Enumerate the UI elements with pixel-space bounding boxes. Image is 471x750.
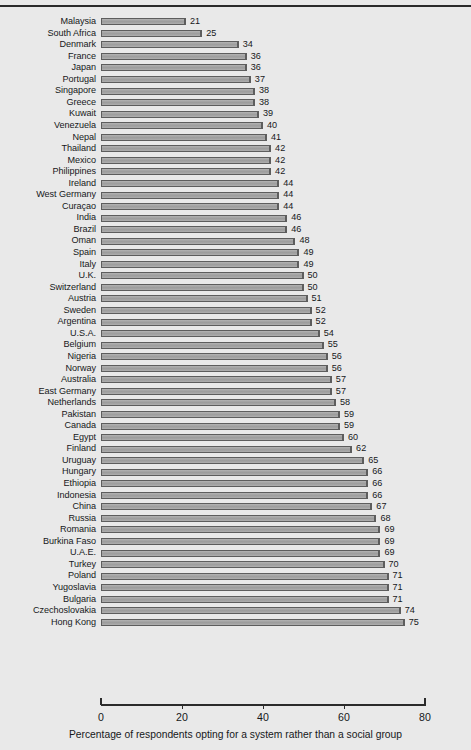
bar-value-label: 44 [283,189,293,201]
x-axis-tick-label: 40 [243,711,283,723]
bar-track [101,342,324,349]
category-label: Uruguay [0,455,96,467]
bar-row: Egypt60 [0,432,471,444]
bar-row: Austria51 [0,293,471,305]
bar-track [101,330,320,337]
bar [101,607,401,614]
category-label: Norway [0,363,96,375]
x-axis-tick [182,704,183,709]
bar [101,30,202,37]
category-label: Russia [0,513,96,525]
bar-row: Poland71 [0,570,471,582]
bar [101,226,287,233]
bar-row: Malaysia21 [0,16,471,28]
bar-value-label: 36 [251,51,261,63]
bar-row: Yugoslavia71 [0,582,471,594]
category-label: Canada [0,420,96,432]
category-label: Venezuela [0,120,96,132]
bar-track [101,215,287,222]
bar-value-label: 51 [312,293,322,305]
category-label: Denmark [0,39,96,51]
bar-row: Philippines42 [0,166,471,178]
bar-track [101,607,401,614]
bar-row: Bulgaria71 [0,594,471,606]
bar-row: Portugal37 [0,74,471,86]
bar [101,619,405,626]
x-axis-tick-label: 60 [324,711,364,723]
bar-value-label: 71 [393,570,403,582]
category-label: Ethiopia [0,478,96,490]
bar [101,157,271,164]
bar-track [101,365,328,372]
bar [101,180,279,187]
category-label: Philippines [0,166,96,178]
bar-value-label: 55 [328,339,338,351]
bar-track [101,376,332,383]
bar-track [101,573,389,580]
x-axis-tick [263,704,264,709]
bar-track [101,238,295,245]
bar [101,584,389,591]
bar-value-label: 38 [259,85,269,97]
bar-row: Hong Kong75 [0,617,471,629]
category-label: Greece [0,97,96,109]
category-label: Mexico [0,155,96,167]
bar-track [101,492,368,499]
bar [101,307,312,314]
bar-value-label: 56 [332,363,342,375]
bar-track [101,353,328,360]
bar-row: Venezuela40 [0,120,471,132]
bar-value-label: 74 [405,605,415,617]
bar-track [101,619,405,626]
bar-track [101,157,271,164]
bar-row: Denmark34 [0,39,471,51]
category-label: Nigeria [0,351,96,363]
bar [101,134,267,141]
category-label: Portugal [0,74,96,86]
bar [101,376,332,383]
bar [101,319,312,326]
bar-value-label: 71 [393,594,403,606]
bar-row: West Germany44 [0,189,471,201]
bar-track [101,168,271,175]
bar-track [101,446,352,453]
category-label: Bulgaria [0,594,96,606]
category-label: U.S.A. [0,328,96,340]
bar-row: East Germany57 [0,386,471,398]
bar-row: Greece38 [0,97,471,109]
bar [101,538,380,545]
bar-value-label: 69 [384,536,394,548]
bar [101,41,239,48]
bar-value-label: 66 [372,466,382,478]
bar-row: Italy49 [0,259,471,271]
bar-row: Sweden52 [0,305,471,317]
category-label: China [0,501,96,513]
bar [101,18,186,25]
category-label: Finland [0,443,96,455]
category-label: Yugoslavia [0,582,96,594]
bar-value-label: 49 [303,247,313,259]
x-axis-label: Percentage of respondents opting for a s… [0,729,471,740]
bar-value-label: 60 [348,432,358,444]
bar-track [101,526,380,533]
bar-row: South Africa25 [0,28,471,40]
bar-value-label: 59 [344,409,354,421]
x-axis-tick-label: 80 [405,711,445,723]
plot-area: Malaysia21South Africa25Denmark34France3… [0,16,471,706]
bar [101,203,279,210]
bar-row: Norway56 [0,363,471,375]
bar-track [101,18,186,25]
bar-row: Hungary66 [0,466,471,478]
bar-row: Australia57 [0,374,471,386]
bar [101,561,385,568]
bar-value-label: 49 [303,259,313,271]
bar [101,457,364,464]
x-axis-tick [344,704,345,709]
bar-row: Burkina Faso69 [0,536,471,548]
category-label: Oman [0,235,96,247]
bar-value-label: 21 [190,16,200,28]
bar-track [101,53,247,60]
bar-track [101,503,372,510]
bar-track [101,145,271,152]
category-label: Romania [0,524,96,536]
